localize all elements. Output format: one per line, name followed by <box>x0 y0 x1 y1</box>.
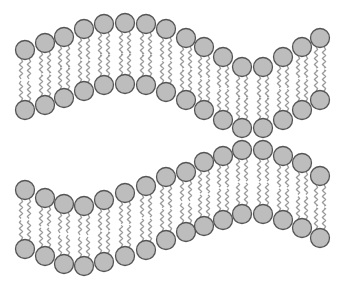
membrane-diagram <box>0 0 346 291</box>
hydrophobic-tail <box>148 33 151 54</box>
phospholipid-head-icon <box>293 101 312 120</box>
hydrophobic-tail <box>217 66 220 88</box>
hydrophobic-tail <box>98 56 101 77</box>
hydrophobic-tail <box>66 46 69 67</box>
hydrophobic-tail <box>27 81 30 102</box>
phospholipid-head-icon <box>254 58 273 77</box>
hydrophobic-tail <box>106 56 109 77</box>
hydrophobic-tail <box>140 219 143 242</box>
hydrophobic-tail <box>66 69 69 90</box>
phospholipid-head-icon <box>116 14 135 33</box>
hydrophobic-tail <box>27 199 30 219</box>
phospholipid-head-icon <box>195 38 214 57</box>
hydrophobic-tail <box>285 165 288 188</box>
hydrophobic-tail <box>148 219 151 242</box>
hydrophobic-tail <box>217 165 220 188</box>
hydrophobic-tail <box>127 226 130 248</box>
bilayer-illustration <box>0 0 346 291</box>
phospholipid-head-icon <box>55 255 74 274</box>
hydrophobic-tail <box>188 203 191 224</box>
hydrophobic-tail <box>160 210 163 232</box>
hydrophobic-tail <box>225 189 228 212</box>
hydrophobic-tail <box>296 56 299 78</box>
hydrophobic-tail <box>314 70 317 92</box>
hydrophobic-tail <box>265 159 268 182</box>
phospholipid-head-icon <box>157 83 176 102</box>
hydrophobic-tail <box>106 209 109 231</box>
hydrophobic-tail <box>47 75 50 97</box>
hydrophobic-tail <box>160 38 163 60</box>
phospholipid-head-icon <box>55 28 74 47</box>
hydrophobic-tail <box>106 232 109 254</box>
hydrophobic-tail <box>188 181 191 202</box>
hydrophobic-tail <box>47 52 50 74</box>
phospholipid-head-icon <box>116 247 135 266</box>
phospholipid-head-icon <box>311 229 330 248</box>
phospholipid-head-icon <box>293 154 312 173</box>
hydrophobic-tail <box>217 189 220 212</box>
phospholipid-head-icon <box>36 247 55 266</box>
phospholipid-head-icon <box>116 75 135 94</box>
hydrophobic-tail <box>265 183 268 206</box>
hydrophobic-tail <box>168 38 171 60</box>
hydrophobic-tail <box>119 202 122 224</box>
hydrophobic-tail <box>236 76 239 97</box>
hydrophobic-tail <box>257 183 260 206</box>
hydrophobic-tail <box>119 55 122 76</box>
phospholipid-head-icon <box>195 101 214 120</box>
phospholipid-head-icon <box>16 101 35 120</box>
hydrophobic-tail <box>277 90 280 112</box>
phospholipid-head-icon <box>16 181 35 200</box>
phospholipid-head-icon <box>16 41 35 60</box>
hydrophobic-tail <box>180 181 183 202</box>
hydrophobic-tail <box>78 215 81 236</box>
hydrophobic-tail <box>58 46 61 67</box>
hydrophobic-tail <box>98 33 101 54</box>
heads-layer <box>16 14 330 276</box>
phospholipid-head-icon <box>157 20 176 39</box>
hydrophobic-tail <box>58 213 61 234</box>
hydrophobic-tail <box>19 199 22 219</box>
hydrophobic-tail <box>314 185 317 207</box>
hydrophobic-tail <box>236 99 239 120</box>
phospholipid-head-icon <box>214 211 233 230</box>
hydrophobic-tail <box>78 237 81 258</box>
hydrophobic-tail <box>27 221 30 241</box>
hydrophobic-tail <box>225 165 228 188</box>
hydrophobic-tail <box>304 197 307 220</box>
phospholipid-head-icon <box>274 211 293 230</box>
hydrophobic-tail <box>296 172 299 195</box>
hydrophobic-tail <box>119 226 122 248</box>
phospholipid-head-icon <box>214 48 233 67</box>
hydrophobic-tail <box>198 56 201 78</box>
hydrophobic-tail <box>148 195 151 218</box>
hydrophobic-tail <box>19 221 22 241</box>
phospholipid-head-icon <box>233 205 252 224</box>
phospholipid-head-icon <box>137 241 156 260</box>
phospholipid-head-icon <box>157 168 176 187</box>
phospholipid-head-icon <box>177 223 196 242</box>
phospholipid-head-icon <box>95 76 114 95</box>
phospholipid-head-icon <box>137 76 156 95</box>
hydrophobic-tail <box>244 99 247 120</box>
phospholipid-head-icon <box>195 153 214 172</box>
hydrophobic-tail <box>39 228 42 248</box>
hydrophobic-tail <box>19 59 22 80</box>
hydrophobic-tail <box>277 189 280 212</box>
hydrophobic-tail <box>236 183 239 206</box>
phospholipid-head-icon <box>195 217 214 236</box>
hydrophobic-tail <box>304 80 307 102</box>
hydrophobic-tail <box>160 186 163 208</box>
hydrophobic-tail <box>127 55 130 76</box>
hydrophobic-tail <box>19 81 22 102</box>
phospholipid-head-icon <box>214 147 233 166</box>
hydrophobic-tail <box>244 76 247 97</box>
phospholipid-head-icon <box>177 163 196 182</box>
hydrophobic-tail <box>168 186 171 208</box>
phospholipid-head-icon <box>311 91 330 110</box>
hydrophobic-tail <box>257 76 260 97</box>
phospholipid-head-icon <box>254 141 273 160</box>
hydrophobic-tail <box>180 47 183 69</box>
hydrophobic-tail <box>304 56 307 78</box>
phospholipid-head-icon <box>311 29 330 48</box>
